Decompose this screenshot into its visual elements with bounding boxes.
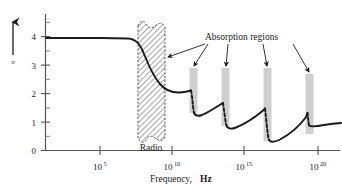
arrow-to-absorption-3: [263, 44, 267, 66]
x-tick-base-2: 10: [164, 162, 174, 172]
y-tick-label-3: 3: [32, 61, 37, 71]
x-tick-base-3: 10: [236, 162, 246, 172]
absorption-band-2: [222, 68, 230, 126]
x-tick-label-2: 10 10: [164, 160, 181, 173]
radio-band-label: Radio: [140, 143, 163, 153]
y-axis-label: n: [11, 58, 14, 65]
arrow-to-radio-band: [168, 44, 205, 57]
x-tick-exp-1: 5: [104, 160, 107, 167]
y-tick-label-2: 2: [32, 89, 37, 99]
curve-segment-solid-1: [46, 38, 191, 93]
x-axis-label-group: Frequency, Hz: [150, 174, 212, 184]
x-tick-exp-4: 20: [320, 160, 326, 167]
curve-segment-solid-5: [309, 123, 341, 126]
x-tick-exp-2: 10: [174, 160, 180, 167]
x-tick-base-4: 10: [310, 162, 320, 172]
absorption-regions-label: Absorption regions: [205, 32, 278, 42]
y-axis-minor-ticks: [46, 22, 51, 136]
x-tick-exp-3: 15: [246, 160, 252, 167]
curve-segment-solid-2: [194, 103, 223, 116]
arrow-to-absorption-2: [226, 44, 228, 66]
y-tick-label-4: 4: [32, 32, 37, 42]
curve-segment-solid-3: [227, 109, 265, 129]
x-tick-label-1: 10 5: [93, 160, 107, 173]
refraction-index-chart: 4 3 2 1 0 n 10 5 10 10 10 15 10 20 Frequ…: [0, 0, 342, 185]
x-tick-label-3: 10 15: [236, 160, 253, 173]
x-axis-unit: Hz: [200, 174, 212, 184]
y-axis-label-group: n: [11, 22, 14, 65]
x-tick-base-1: 10: [93, 162, 103, 172]
annotation-arrows: [168, 44, 309, 72]
y-tick-label-1: 1: [32, 118, 37, 128]
y-tick-label-0: 0: [32, 146, 37, 156]
x-axis-label: Frequency,: [150, 174, 192, 184]
curve-segment-solid-4: [269, 113, 308, 142]
radio-band: [138, 21, 165, 142]
x-tick-label-4: 10 20: [310, 160, 327, 173]
arrow-to-absorption-4: [293, 44, 309, 72]
